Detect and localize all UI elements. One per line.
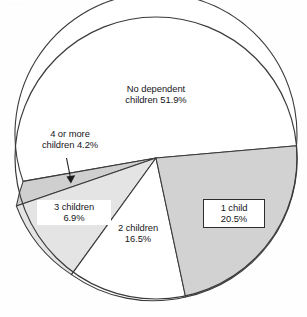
slice-label-three-children: 3 children 6.9% xyxy=(37,200,111,225)
slice-label-one-child: 1 child 20.5% xyxy=(203,199,265,228)
slice-label-no-dependent-children: No dependent children 51.9% xyxy=(103,83,209,106)
slice-label-line-1: No dependent xyxy=(103,83,209,94)
slice-label-line-2: 6.9% xyxy=(40,212,108,223)
pie-chart-canvas xyxy=(0,0,307,317)
slice-label-line-1: 2 children xyxy=(102,222,174,233)
slice-label-line-2: 16.5% xyxy=(102,233,174,244)
pie-chart-figure: ........... No dependent children 51.9% … xyxy=(0,0,307,317)
slice-label-line-1: 3 children xyxy=(40,201,108,212)
slice-label-line-2: 20.5% xyxy=(208,213,260,224)
slice-label-line-1: 4 or more xyxy=(20,128,120,139)
slice-label-line-1: 1 child xyxy=(208,202,260,213)
slice-label-line-2: children 51.9% xyxy=(103,94,209,105)
slice-label-line-2: children 4.2% xyxy=(20,139,120,150)
slice-label-two-children: 2 children 16.5% xyxy=(102,222,174,245)
slice-label-four-or-more-children: 4 or more children 4.2% xyxy=(20,128,120,151)
